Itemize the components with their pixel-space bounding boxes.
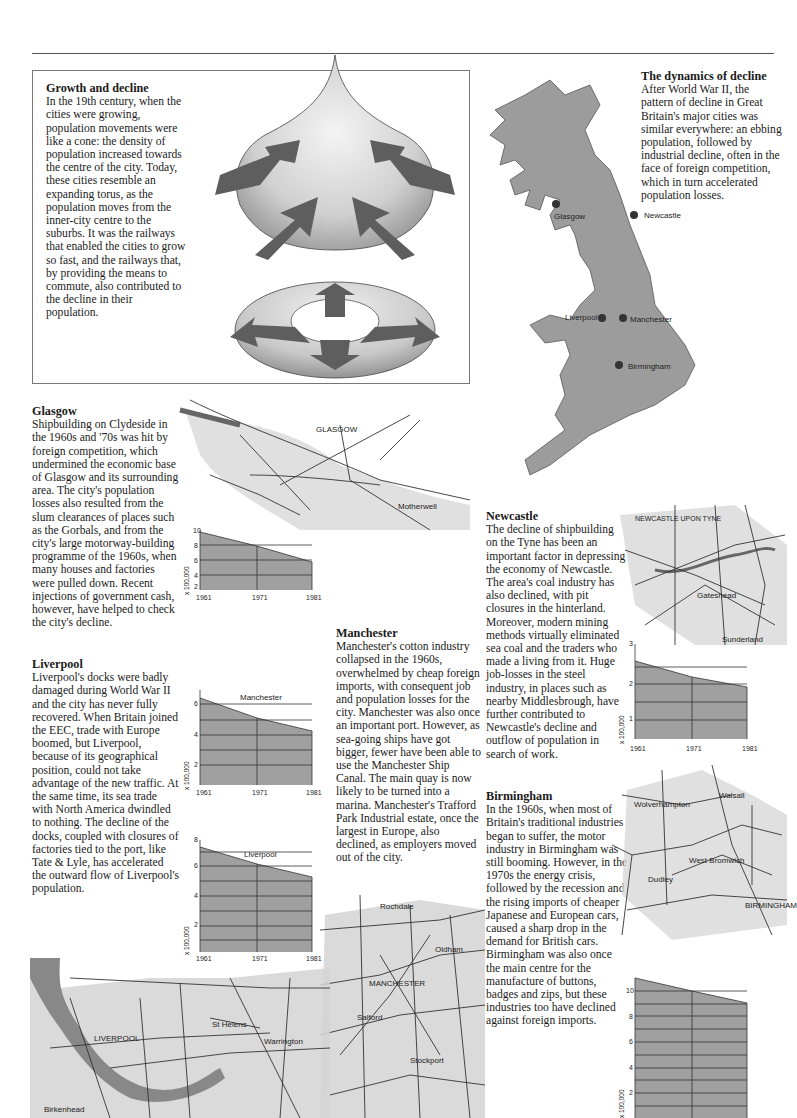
article-title: Liverpool	[32, 658, 180, 671]
article-title: Newcastle	[486, 510, 628, 523]
newcastle-article: Newcastle The decline of shipbuilding on…	[486, 510, 628, 761]
cone-torus-illustration	[200, 55, 460, 375]
manchester-article: Manchester Manchester's cotton industry …	[336, 627, 482, 865]
map-label-oldham: Oldham	[435, 945, 463, 954]
map-label-gateshead: Gateshead	[697, 591, 736, 600]
article-body: In the 1960s, when most of Britain's tra…	[486, 803, 628, 1027]
x-tick: 1971	[686, 745, 702, 752]
map-label-st-helens: St Helens	[212, 1020, 247, 1029]
liverpool-article: Liverpool Liverpool's docks were badly d…	[32, 658, 180, 896]
map-label-stockport: Stockport	[410, 1056, 444, 1065]
article-title: Manchester	[336, 627, 482, 640]
y-axis-unit: x 100,000	[618, 1089, 625, 1118]
y-tick: 10	[626, 987, 634, 994]
map-label-salford: Salford	[357, 1013, 382, 1022]
article-body: The decline of shipbuilding on the Tyne …	[486, 523, 628, 761]
manchester-population-chart: Manchester 6 4 2 x 100,000 1961 1971 198…	[182, 690, 332, 805]
y-tick: 4	[194, 892, 198, 899]
y-tick: 4	[194, 572, 198, 579]
article-body: Shipbuilding on Clydeside in the 1960s a…	[32, 418, 180, 629]
y-tick: 8	[629, 1013, 633, 1020]
uk-map-label-newcastle: Newcastle	[644, 211, 681, 220]
y-tick: 6	[194, 862, 198, 869]
top-rule	[32, 53, 774, 54]
y-axis-unit: x 100,000	[183, 566, 190, 595]
y-tick: 2	[629, 680, 633, 687]
uk-map-label-liverpool: Liverpool	[565, 313, 597, 322]
y-tick: 2	[194, 921, 198, 928]
map-label-west-bromwich: West Bromwich	[689, 856, 744, 865]
map-label-birmingham: BIRMINGHAM	[745, 901, 797, 910]
y-tick: 8	[194, 836, 198, 843]
map-label-walsall: Walsall	[719, 791, 744, 800]
map-label-manchester: MANCHESTER	[369, 979, 425, 988]
map-label-warrington: Warrington	[264, 1037, 303, 1046]
y-axis-unit: x 100,000	[183, 761, 190, 790]
article-body: In the 19th century, when the cities wer…	[46, 95, 186, 319]
liverpool-population-chart: Liverpool 8 6 4 2 x 100,000 1961 1971 19…	[182, 840, 332, 970]
uk-map-label-glasgow: Glasgow	[554, 212, 585, 221]
map-label-newcastle-upon-tyne: NEWCASTLE UPON TYNE	[635, 515, 721, 522]
x-tick: 1971	[252, 789, 268, 796]
x-tick: 1981	[306, 789, 322, 796]
newcastle-population-chart: 3 2 1 x 100,000 1961 1971 1981	[618, 644, 787, 759]
glasgow-map	[180, 395, 480, 535]
x-tick: 1961	[196, 594, 212, 601]
glasgow-population-chart: 10 8 6 4 2 x 100,000 1961 1971 1981	[182, 530, 332, 610]
x-tick: 1961	[196, 789, 212, 796]
birmingham-map	[612, 765, 787, 945]
chart-title: Manchester	[240, 693, 282, 702]
birmingham-article: Birmingham In the 1960s, when most of Br…	[486, 790, 628, 1028]
y-tick: 6	[194, 700, 198, 707]
map-label-sunderland: Sunderland	[722, 635, 763, 644]
x-tick: 1981	[306, 594, 322, 601]
map-label-motherwell: Motherwell	[398, 502, 437, 511]
y-tick: 1	[629, 715, 633, 722]
manchester-map	[320, 895, 485, 1118]
y-axis-unit: x 100,000	[183, 926, 190, 955]
x-tick: 1971	[252, 594, 268, 601]
article-title: Growth and decline	[46, 82, 186, 95]
article-body: Manchester's cotton industry collapsed i…	[336, 640, 482, 864]
uk-map-label-birmingham: Birmingham	[628, 362, 671, 371]
uk-map	[470, 75, 700, 485]
y-tick: 4	[194, 731, 198, 738]
y-tick: 2	[194, 761, 198, 768]
y-tick: 3	[629, 640, 633, 647]
birmingham-population-chart: 10 8 6 4 2 x 100,000	[618, 978, 787, 1118]
y-tick: 6	[629, 1038, 633, 1045]
article-body: Liverpool's docks were badly damaged dur…	[32, 671, 180, 895]
map-label-glasgow: GLASGOW	[316, 425, 357, 434]
y-tick: 8	[194, 542, 198, 549]
y-tick: 10	[193, 527, 201, 534]
map-label-birkenhead: Birkenhead	[44, 1105, 84, 1114]
x-tick: 1961	[630, 745, 646, 752]
map-label-wolverhampton: Wolverhampton	[634, 800, 690, 809]
map-label-rochdale: Rochdale	[380, 902, 414, 911]
y-tick: 4	[629, 1064, 633, 1071]
map-label-dudley: Dudley	[648, 875, 673, 884]
map-label-liverpool: LIVERPOOL	[94, 1034, 139, 1043]
article-title: Glasgow	[32, 405, 180, 418]
growth-decline-article: Growth and decline In the 19th century, …	[46, 82, 186, 320]
article-title: Birmingham	[486, 790, 628, 803]
y-axis-unit: x 100,000	[618, 715, 625, 744]
y-tick: 2	[629, 1089, 633, 1096]
newcastle-map	[615, 505, 787, 645]
chart-title: Liverpool	[244, 850, 276, 859]
y-tick: 6	[194, 557, 198, 564]
x-tick: 1981	[742, 745, 758, 752]
glasgow-article: Glasgow Shipbuilding on Clydeside in the…	[32, 405, 180, 629]
y-tick: 2	[194, 583, 198, 590]
uk-map-label-manchester: Manchester	[630, 315, 672, 324]
